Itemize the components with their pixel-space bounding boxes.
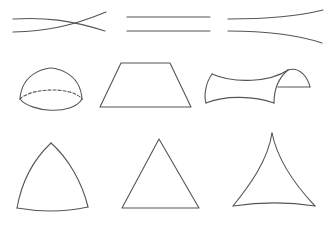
hemisphere-surface: [20, 68, 82, 110]
hyperbolic-diverging-lines: [228, 10, 323, 43]
euclidean-parallel-lines: [127, 17, 210, 31]
spherical-crossing-lines: [13, 12, 106, 32]
spherical-triangle: [17, 143, 88, 211]
hyperbolic-triangle: [233, 133, 315, 206]
saddle-surface: [205, 69, 310, 103]
geometry-comparison-figure: [0, 0, 333, 228]
flat-plane-surface: [100, 63, 191, 107]
euclidean-triangle: [122, 139, 199, 208]
